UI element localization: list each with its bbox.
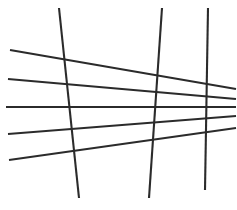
- figure-background: [0, 0, 237, 210]
- figure-canvas: [0, 0, 237, 210]
- line-figure-svg: [0, 0, 237, 210]
